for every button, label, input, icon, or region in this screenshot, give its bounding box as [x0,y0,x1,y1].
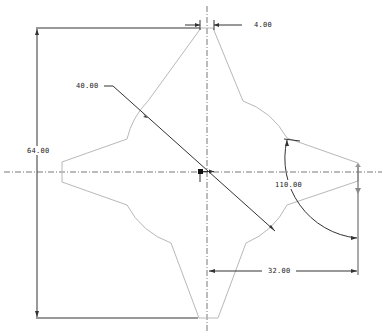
dimension-label-overall-height: 64.00 [27,147,50,155]
dimension-label-horizontal-offset: 32.00 [268,267,291,275]
dimension-radius[interactable]: 40.00 [76,82,275,231]
sketch-origin[interactable] [198,169,214,182]
dimension-overall-height[interactable]: 64.00 [26,28,200,318]
dimension-angle[interactable]: 110.00 [274,139,357,240]
dimension-horizontal-offset[interactable]: 32.00 [209,267,357,275]
dimension-label-top-width: 4.00 [254,21,272,29]
dimension-label-radius: 40.00 [76,82,99,90]
right-reference-marker[interactable] [355,163,361,275]
cad-sketch-canvas[interactable]: 4.00 64.00 40.00 110.00 [0,0,386,336]
dimension-label-angle: 110.00 [275,181,302,189]
